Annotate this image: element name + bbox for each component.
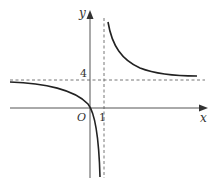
curve-right-branch <box>108 22 197 76</box>
origin-label: O <box>77 111 86 124</box>
y-tick-label: 4 <box>80 67 87 80</box>
x-axis-label: x <box>200 111 207 125</box>
graph-svg: y x O 1 4 <box>0 0 215 187</box>
y-axis-label: y <box>78 6 86 20</box>
curve-left-branch <box>10 82 100 177</box>
function-graph: y x O 1 4 <box>0 0 215 187</box>
y-axis-arrow-icon <box>87 10 94 19</box>
x-tick-label: 1 <box>99 111 106 124</box>
